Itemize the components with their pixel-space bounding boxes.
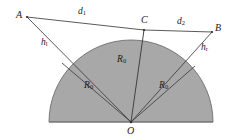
segment-label-hr: hr	[201, 43, 208, 53]
segment-label-hl-sub: l	[46, 40, 48, 47]
segment-label-hl: hl	[41, 38, 48, 48]
segment-label-r0-center-sub: 0	[123, 57, 126, 64]
segment-label-r0-center: R0	[117, 55, 126, 65]
point-label-c: C	[141, 15, 148, 25]
semicircle-shaded-region	[49, 40, 213, 122]
vertex-dot-b	[211, 31, 213, 33]
segment-label-r0-left: R0	[84, 81, 93, 91]
vertex-dot-a	[26, 16, 28, 18]
figure-canvas	[0, 0, 233, 140]
segment-label-d1: d1	[78, 7, 86, 17]
point-label-b: B	[215, 23, 221, 33]
segment-label-r0-left-sub: 0	[90, 83, 93, 90]
vertex-dot-c	[143, 29, 145, 31]
chord-a-to-c	[27, 17, 144, 30]
vertex-dot-o	[130, 121, 132, 123]
point-label-a: A	[16, 10, 22, 20]
segment-label-d2-sub: 2	[182, 19, 185, 26]
chord-c-to-b	[144, 30, 212, 32]
point-label-o: O	[127, 126, 134, 136]
segment-label-r0-right-sub: 0	[165, 83, 168, 90]
geometry-figure: A C B O d1 d2 hl hr R0 R0 R0	[0, 0, 233, 140]
segment-label-hr-sub: r	[206, 45, 208, 52]
segment-label-d2: d2	[177, 17, 185, 27]
segment-label-r0-right: R0	[159, 81, 168, 91]
segment-label-d1-sub: 1	[83, 9, 86, 16]
